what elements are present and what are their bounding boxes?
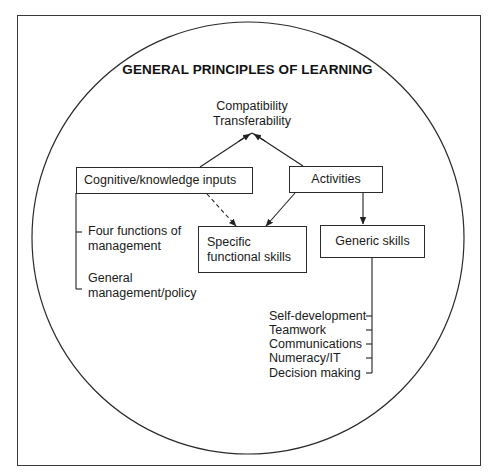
cognitive-inputs-box: Cognitive/knowledge inputs <box>76 167 253 194</box>
compatibility-label: Compatibility <box>200 99 304 114</box>
activities-label: Activities <box>290 172 382 187</box>
skill-item: Communications <box>269 337 362 352</box>
branch-general-management-line1: General <box>88 271 132 286</box>
cognitive-inputs-label: Cognitive/knowledge inputs <box>84 173 252 188</box>
generic-skills-label: Generic skills <box>321 234 424 249</box>
generic-skills-box: Generic skills <box>320 225 425 258</box>
branch-four-functions-line2: management <box>88 239 161 254</box>
activities-box: Activities <box>289 166 383 193</box>
skill-item: Decision making <box>269 366 361 381</box>
diagram-title: GENERAL PRINCIPLES OF LEARNING <box>0 62 495 77</box>
edge-cognitive-to-specific-dashed <box>207 194 236 226</box>
skill-item: Numeracy/IT <box>269 351 341 366</box>
edge-activities-to-specific <box>266 193 295 226</box>
specific-skills-line2: functional skills <box>207 250 306 265</box>
transferability-label: Transferability <box>200 114 304 129</box>
specific-skills-line1: Specific <box>207 235 306 250</box>
branch-four-functions-line1: Four functions of <box>88 224 181 239</box>
diagram-canvas: GENERAL PRINCIPLES OF LEARNING Compatibi… <box>0 0 495 476</box>
skill-item: Self-development <box>269 309 366 324</box>
branch-general-management-line2: management/policy <box>88 286 196 301</box>
skill-item: Teamwork <box>269 323 326 338</box>
specific-skills-box: Specific functional skills <box>198 226 307 273</box>
